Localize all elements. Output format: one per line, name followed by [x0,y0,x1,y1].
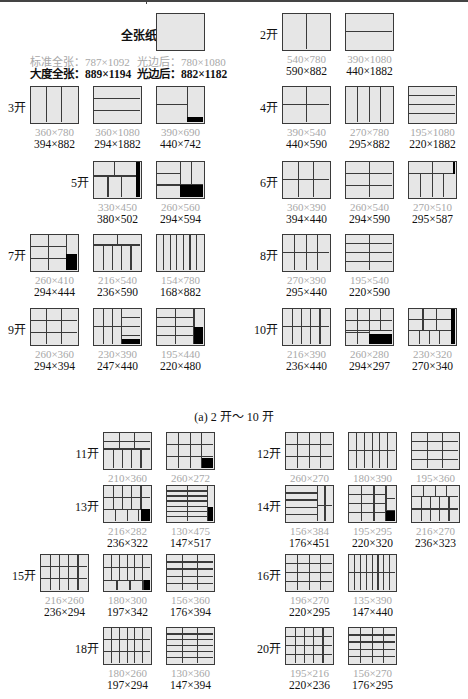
fold-count-label: 13开 [59,497,99,515]
large-size-label: 294×594 [141,213,221,225]
cut-line [346,252,392,253]
cut-line [131,449,132,468]
cut-line [183,235,184,270]
cut-line [103,245,104,270]
cut-line [412,496,458,497]
cut-line [107,176,108,197]
imposition-diagram [93,161,142,199]
cut-line [443,174,444,198]
cut-line [346,173,392,174]
standard-size-label: 270×510 [393,201,468,213]
standard-size-label: 390×1080 [330,53,410,65]
cut-line [349,450,395,451]
cut-line [127,509,128,521]
standard-size-label: 156×360 [151,594,231,606]
imposition-diagram [345,308,394,346]
cut-line [286,444,332,445]
cut-line [61,309,62,344]
cut-line [421,497,422,522]
cut-line [167,583,213,584]
imposition-diagram [348,554,397,592]
imposition-diagram [282,308,331,346]
large-size-label: 440×742 [141,138,221,150]
fold-count-label: 10开 [238,320,278,338]
cut-line [167,495,208,496]
standard-size-label: 130×475 [151,525,231,537]
imposition-diagram [103,554,152,592]
cut-line [77,555,78,590]
cut-line [121,176,122,197]
fold-count-label: 6开 [238,173,278,191]
cut-line [283,252,329,253]
imposition-diagram [103,485,152,523]
large-size-label: 270×340 [393,360,468,372]
cut-line [119,628,120,663]
cut-line [46,309,47,344]
cut-line [430,497,431,522]
cut-line [283,179,329,180]
cut-line [420,174,421,198]
waste-area [136,162,141,197]
cut-line [104,448,150,449]
cut-line [167,506,208,507]
imposition-diagram [345,161,394,199]
fold-count-label: 15开 [0,566,36,584]
imposition-diagram [103,627,152,665]
cut-line [31,320,77,321]
cut-line [182,555,183,590]
cut-line [346,330,392,331]
cut-line [41,578,87,579]
cut-line [297,433,298,468]
fold-count-label: 14开 [241,497,281,515]
large-size-label: 295×587 [393,213,468,225]
cut-line [349,503,386,504]
cut-line [349,494,386,495]
cut-line [167,645,213,646]
cut-line [167,511,208,512]
cut-line [360,628,361,663]
large-size-label: 220×590 [330,286,410,298]
fold-count-label: 2开 [238,25,278,43]
large-size-label: 440×1882 [330,65,410,77]
cut-line [286,456,332,457]
imposition-diagram [411,432,460,470]
standard-size-label: 156×270 [333,667,413,679]
imposition-diagram [30,234,79,272]
fold-count-label: 8开 [238,246,278,264]
cut-line [283,326,329,327]
top-rule [0,0,468,2]
cut-line [357,309,358,344]
cut-line [113,449,114,468]
waste-area [141,509,150,521]
imposition-diagram [166,554,215,592]
standard-size-label: 195×540 [330,274,410,286]
cut-line [409,319,451,320]
cut-line [111,628,112,663]
cut-line [196,235,197,270]
imposition-diagram [411,485,460,523]
imposition-diagram [40,554,89,592]
cut-line [320,433,321,468]
standard-size-label: 154×780 [141,274,221,286]
imposition-diagram [282,161,331,199]
standard-size-label: 216×270 [396,525,468,537]
waste-area [180,185,203,197]
cut-line [122,317,140,318]
cut-line [349,634,395,635]
imposition-diagram [408,308,457,346]
cut-line [423,486,424,497]
cut-line [349,641,395,642]
waste-area [194,327,203,345]
cut-line [324,486,325,521]
cut-line [412,508,458,509]
waste-area [208,507,214,521]
imposition-diagram [93,234,142,272]
cut-line [138,509,139,521]
fold-count-label: 11开 [59,444,99,462]
cut-line [429,330,430,344]
caption-a: (a) 2 开～ 10 开 [0,407,468,425]
cut-line [412,441,458,442]
cut-line [317,505,332,506]
cut-line [121,245,122,270]
large-size-label: 147×394 [151,679,231,691]
